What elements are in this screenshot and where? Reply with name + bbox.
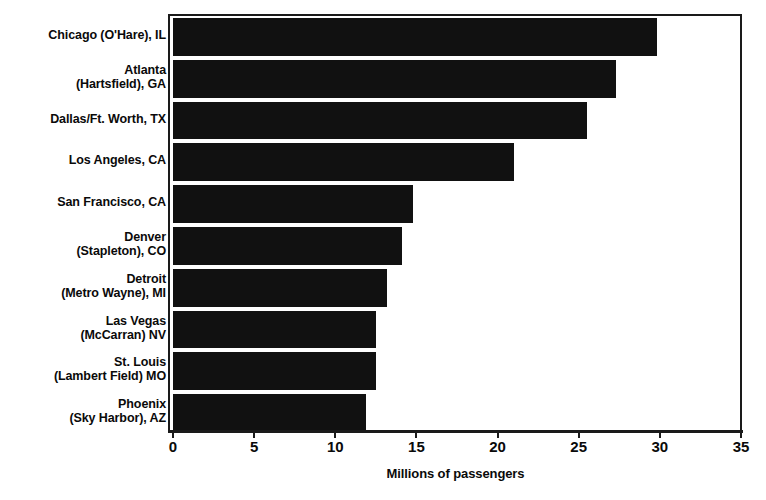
plot-area xyxy=(168,14,742,432)
bar xyxy=(173,394,366,432)
x-axis-tick xyxy=(334,430,336,438)
bar xyxy=(173,227,402,265)
x-axis-tick-label: 10 xyxy=(315,438,355,455)
bar xyxy=(173,18,657,56)
x-axis-tick xyxy=(497,430,499,438)
x-axis-tick-label: 20 xyxy=(478,438,518,455)
category-axis-labels: Chicago (O'Hare), ILAtlanta (Hartsfield)… xyxy=(0,14,166,432)
bar xyxy=(173,102,587,140)
category-label: Denver (Stapleton), CO xyxy=(0,230,166,258)
category-label: Atlanta (Hartsfield), GA xyxy=(0,63,166,91)
bar xyxy=(173,352,376,390)
x-axis-tick xyxy=(172,430,174,438)
x-axis-tick-label: 0 xyxy=(153,438,193,455)
bar-series xyxy=(170,16,744,434)
x-axis-tick xyxy=(415,430,417,438)
x-axis-tick-label: 25 xyxy=(559,438,599,455)
category-label: San Francisco, CA xyxy=(0,195,166,209)
category-label: Dallas/Ft. Worth, TX xyxy=(0,112,166,126)
bar xyxy=(173,311,376,349)
category-label: Los Angeles, CA xyxy=(0,153,166,167)
x-axis-tick-label: 15 xyxy=(396,438,436,455)
x-axis-tick xyxy=(740,430,742,438)
bar xyxy=(173,143,514,181)
x-axis-tick-label: 35 xyxy=(721,438,761,455)
category-label: Las Vegas (McCarran) NV xyxy=(0,314,166,342)
category-label: Chicago (O'Hare), IL xyxy=(0,28,166,42)
bar-chart-figure: Chicago (O'Hare), ILAtlanta (Hartsfield)… xyxy=(0,0,766,500)
x-axis-tick xyxy=(253,430,255,438)
bar xyxy=(173,269,387,307)
x-axis-tick xyxy=(659,430,661,438)
category-label: St. Louis (Lambert Field) MO xyxy=(0,355,166,383)
category-label: Detroit (Metro Wayne), MI xyxy=(0,272,166,300)
x-axis-tick-label: 5 xyxy=(234,438,274,455)
x-axis-tick xyxy=(578,430,580,438)
bar xyxy=(173,60,616,98)
category-label: Phoenix (Sky Harbor), AZ xyxy=(0,397,166,425)
x-axis-title: Millions of passengers xyxy=(168,466,743,481)
bar xyxy=(173,185,413,223)
x-axis-tick-label: 30 xyxy=(640,438,680,455)
